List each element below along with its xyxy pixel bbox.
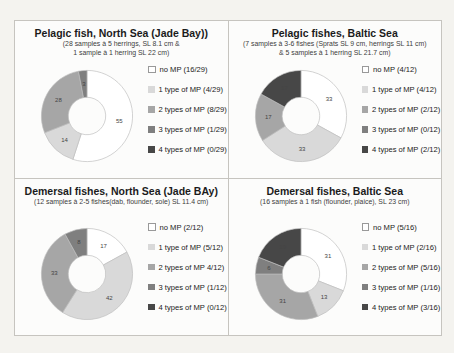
legend-item: 4 types of MP (2/12): [362, 145, 441, 154]
legend-swatch-icon: [362, 264, 369, 271]
legend-label: 1 type of MP (2/16): [372, 243, 436, 252]
chart-legend: no MP (16/29)1 type of MP (4/29)2 types …: [148, 65, 227, 154]
legend-label: 2 types of MP 4/12): [159, 263, 225, 272]
legend-item: 2 types of MP (5/16): [362, 263, 441, 272]
legend-swatch-icon: [148, 106, 155, 113]
slice-label: 55: [116, 118, 123, 124]
slice-label: 31: [279, 297, 286, 303]
legend-item: 2 types of MP (8/29): [148, 105, 227, 114]
legend-swatch-icon: [148, 126, 155, 133]
legend-swatch-icon: [362, 223, 370, 231]
legend-item: 3 types of MP (1/12): [148, 283, 227, 292]
legend-label: 4 types of MP (2/12): [372, 145, 440, 154]
legend-swatch-icon: [362, 284, 369, 291]
slice-label: 28: [55, 97, 62, 103]
legend-label: no MP (16/29): [160, 65, 208, 74]
legend-label: 2 types of MP (2/12): [372, 105, 440, 114]
donut-slice: [63, 252, 133, 320]
legend-item: 1 type of MP (2/16): [362, 243, 441, 252]
legend-item: no MP (16/29): [148, 65, 227, 74]
legend-swatch-icon: [362, 304, 369, 311]
slice-label: 19: [279, 244, 286, 250]
chart-panel-demersal-baltic-sea: Demersal fishes, Baltic Sea (16 samples …: [229, 179, 442, 336]
legend-label: no MP (5/16): [373, 223, 417, 232]
legend-swatch-icon: [148, 146, 155, 153]
legend-item: 3 types of MP (1/16): [362, 283, 441, 292]
chart-subtitle: (7 samples à 3-6 fishes (Sprats SL 9 cm,…: [229, 40, 442, 58]
legend-item: 4 types of MP (0/12): [148, 303, 227, 312]
slice-label: 31: [324, 252, 331, 258]
legend-item: 3 types of MP (0/12): [362, 125, 441, 134]
donut-slice: [301, 228, 347, 290]
chart-title: Pelagic fish, North Sea (Jade Bay)): [18, 27, 225, 39]
legend-swatch-icon: [362, 126, 369, 133]
legend-swatch-icon: [148, 304, 155, 311]
slice-label: 33: [325, 96, 332, 102]
slice-label: 17: [265, 114, 272, 120]
legend-item: 1 type of MP (4/29): [148, 85, 227, 94]
chart-panel-demersal-north-sea: Demersal fishes, North Sea (Jade BAy) (1…: [15, 179, 228, 336]
legend-swatch-icon: [148, 223, 156, 231]
legend-label: 4 types of MP (3/16): [372, 303, 440, 312]
slice-label: 33: [298, 146, 305, 152]
legend-label: 1 type of MP (4/12): [372, 85, 436, 94]
legend-swatch-icon: [362, 66, 370, 74]
chart-subtitle-line: (16 samples à 1 fish (flounder, plaice),…: [229, 198, 442, 207]
legend-item: 2 types of MP 4/12): [148, 263, 227, 272]
legend-item: 4 types of MP (3/16): [362, 303, 441, 312]
legend-label: 2 types of MP (5/16): [372, 263, 440, 272]
legend-swatch-icon: [148, 264, 155, 271]
donut-svg: 5514283: [39, 68, 135, 164]
legend-item: 4 types of MP (0/29): [148, 145, 227, 154]
legend-swatch-icon: [362, 106, 369, 113]
figure-grid: Pelagic fish, North Sea (Jade Bay)) (28 …: [14, 20, 442, 336]
chart-title: Demersal fishes, North Sea (Jade BAy): [18, 185, 225, 197]
slice-label: 17: [100, 242, 107, 248]
legend-swatch-icon: [148, 284, 155, 291]
donut-svg: 33331717: [253, 68, 349, 164]
legend-label: 4 types of MP (0/29): [159, 145, 227, 154]
chart-legend: no MP (5/16)1 type of MP (2/16)2 types o…: [362, 223, 441, 312]
legend-item: no MP (2/12): [148, 223, 227, 232]
legend-swatch-icon: [362, 244, 369, 251]
donut-slice: [255, 274, 317, 320]
chart-subtitle-line: (28 samples à 5 herrings, SL 8.1 cm &: [15, 40, 228, 49]
chart-legend: no MP (2/12)1 type of MP (5/12)2 types o…: [148, 223, 227, 312]
chart-subtitle-line: 1 sample à 1 herring SL 22 cm): [15, 49, 228, 58]
legend-label: 3 types of MP (0/12): [372, 125, 440, 134]
legend-item: 1 type of MP (4/12): [362, 85, 441, 94]
slice-label: 17: [281, 85, 288, 91]
chart-panel-pelagic-baltic-sea: Pelagic fishes, Baltic Sea (7 samples à …: [229, 21, 442, 178]
slice-label: 14: [61, 137, 68, 143]
legend-item: 3 types of MP (1/29): [148, 125, 227, 134]
donut-svg: 311331619: [253, 226, 349, 322]
legend-label: 3 types of MP (1/12): [159, 283, 227, 292]
donut-chart: 5514283: [39, 68, 135, 164]
legend-label: 1 type of MP (4/29): [159, 85, 223, 94]
chart-subtitle: (16 samples à 1 fish (flounder, plaice),…: [229, 198, 442, 207]
donut-chart: 311331619: [253, 226, 349, 322]
chart-title: Demersal fishes, Baltic Sea: [232, 185, 439, 197]
chart-subtitle: (12 samples à 2-5 fishes(dab, flounder, …: [15, 198, 228, 207]
legend-item: no MP (4/12): [362, 65, 441, 74]
legend-item: 2 types of MP (2/12): [362, 105, 441, 114]
chart-subtitle: (28 samples à 5 herrings, SL 8.1 cm & 1 …: [15, 40, 228, 58]
chart-panel-pelagic-north-sea: Pelagic fish, North Sea (Jade Bay)) (28 …: [15, 21, 228, 178]
legend-swatch-icon: [148, 66, 156, 74]
legend-label: 2 types of MP (8/29): [159, 105, 227, 114]
legend-swatch-icon: [148, 86, 155, 93]
legend-swatch-icon: [148, 244, 155, 251]
chart-title: Pelagic fishes, Baltic Sea: [232, 27, 439, 39]
chart-legend: no MP (4/12)1 type of MP (4/12)2 types o…: [362, 65, 441, 154]
chart-subtitle-line: (12 samples à 2-5 fishes(dab, flounder, …: [15, 198, 228, 207]
chart-subtitle-line: (7 samples à 3-6 fishes (Sprats SL 9 cm,…: [229, 40, 442, 49]
legend-label: no MP (4/12): [373, 65, 417, 74]
legend-swatch-icon: [362, 146, 369, 153]
donut-chart: 33331717: [253, 68, 349, 164]
legend-swatch-icon: [362, 86, 369, 93]
legend-label: no MP (2/12): [160, 223, 204, 232]
donut-chart: 1742338: [39, 226, 135, 322]
slice-label: 33: [51, 269, 58, 275]
legend-label: 4 types of MP (0/12): [159, 303, 227, 312]
legend-label: 1 type of MP (5/12): [159, 243, 223, 252]
